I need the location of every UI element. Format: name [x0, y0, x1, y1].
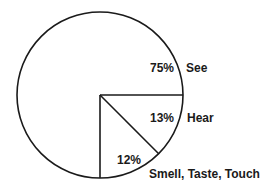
hear-label: Hear — [187, 111, 214, 125]
hear-percent-label: 13% — [150, 111, 174, 125]
see-percent-label: 75% — [150, 61, 174, 75]
stt-label: Smell, Taste, Touch — [149, 167, 260, 181]
stt-percent-label: 12% — [117, 153, 141, 167]
see-label: See — [186, 61, 208, 75]
pie-chart: 75% See 13% Hear 12% Smell, Taste, Touch — [0, 0, 267, 192]
